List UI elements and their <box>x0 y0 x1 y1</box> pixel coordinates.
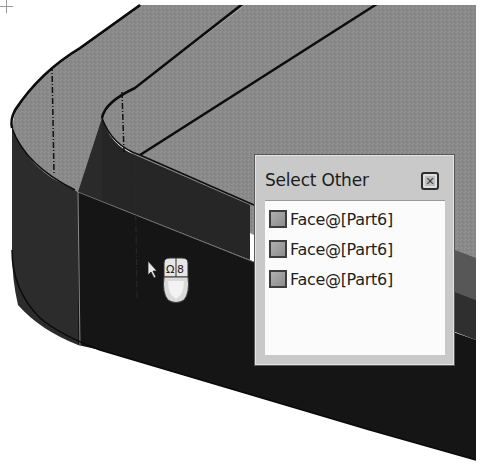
crosshair-icon <box>0 0 13 13</box>
select-other-list: Face@[Part6] Face@[Part6] Face@[Part6] <box>265 200 445 355</box>
list-item-label: Face@[Part6] <box>290 270 393 289</box>
svg-text:Ω: Ω <box>166 263 174 276</box>
mouse-select-other-icon: Ω 8 <box>164 258 189 303</box>
dialog-title: Select Other <box>265 170 369 190</box>
list-item-label: Face@[Part6] <box>290 240 393 259</box>
close-button[interactable]: ✕ <box>421 172 439 190</box>
close-icon: ✕ <box>425 176 434 187</box>
arrow-pointer-icon <box>148 261 157 278</box>
list-item[interactable]: Face@[Part6] <box>269 207 393 231</box>
list-item[interactable]: Face@[Part6] <box>269 267 393 291</box>
list-item-label: Face@[Part6] <box>290 210 393 229</box>
face-swatch-icon <box>269 240 287 258</box>
face-swatch-icon <box>269 210 287 228</box>
face-swatch-icon <box>269 270 287 288</box>
select-other-dialog: Select Other ✕ Face@[Part6] Face@[Part6]… <box>254 154 455 366</box>
list-item[interactable]: Face@[Part6] <box>269 237 393 261</box>
cursor: Ω 8 <box>146 255 206 310</box>
svg-text:8: 8 <box>177 263 184 276</box>
